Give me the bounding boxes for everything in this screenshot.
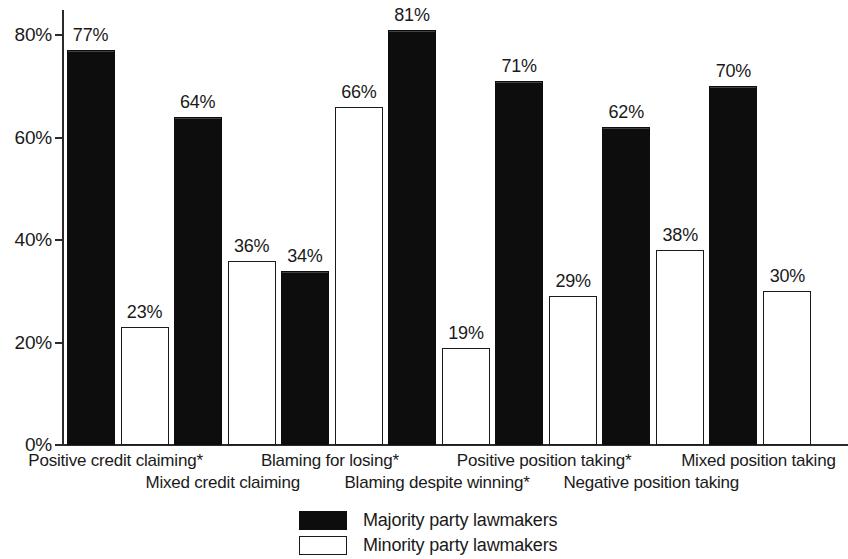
bar-value-label: 34% — [271, 247, 339, 265]
bar-value-label: 29% — [539, 272, 607, 290]
category-label: Positive position taking* — [424, 452, 664, 470]
bar-value-label: 19% — [432, 324, 500, 342]
category-label: Negative position taking — [531, 474, 771, 492]
bar-value-label: 70% — [699, 62, 767, 80]
bar-minority — [228, 261, 276, 446]
bar-value-label: 38% — [646, 226, 714, 244]
legend-label-minority: Minority party lawmakers — [363, 536, 557, 555]
legend-item-minority: Minority party lawmakers — [299, 533, 629, 558]
bar-minority — [442, 348, 490, 445]
bar-minority — [121, 327, 169, 445]
bar-value-label: 71% — [485, 57, 553, 75]
bar-majority — [709, 86, 757, 445]
bar-majority — [602, 127, 650, 445]
category-label: Blaming for losing* — [210, 452, 450, 470]
bar-value-label: 62% — [592, 103, 660, 121]
bar-value-label: 23% — [111, 303, 179, 321]
category-label: Positive credit claiming* — [0, 452, 236, 470]
bar-value-label: 30% — [753, 267, 821, 285]
bar-value-label: 66% — [325, 83, 393, 101]
bar-majority — [388, 30, 436, 445]
bar-minority — [549, 296, 597, 445]
category-label: Blaming despite winning* — [317, 474, 557, 492]
legend-item-majority: Majority party lawmakers — [299, 508, 629, 533]
bars-layer: 77%23%64%36%34%66%81%19%71%29%62%38%70%3… — [0, 0, 848, 446]
bar-value-label: 64% — [164, 93, 232, 111]
black-filled-swatch-icon — [299, 511, 347, 530]
bar-majority — [281, 271, 329, 445]
bar-value-label: 77% — [57, 26, 125, 44]
bar-minority — [763, 291, 811, 445]
bar-majority — [174, 117, 222, 445]
category-label: Mixed credit claiming — [103, 474, 343, 492]
category-label: Mixed position taking — [638, 452, 848, 470]
legend-label-majority: Majority party lawmakers — [363, 511, 557, 530]
bar-majority — [495, 81, 543, 445]
legend: Majority party lawmakers Minority party … — [299, 508, 629, 558]
bar-majority — [67, 50, 115, 445]
bar-minority — [335, 107, 383, 445]
bar-minority — [656, 250, 704, 445]
bar-value-label: 81% — [378, 6, 446, 24]
bar-chart: 0%20%40%60%80% 77%23%64%36%34%66%81%19%7… — [0, 0, 848, 559]
white-outlined-swatch-icon — [299, 536, 347, 555]
